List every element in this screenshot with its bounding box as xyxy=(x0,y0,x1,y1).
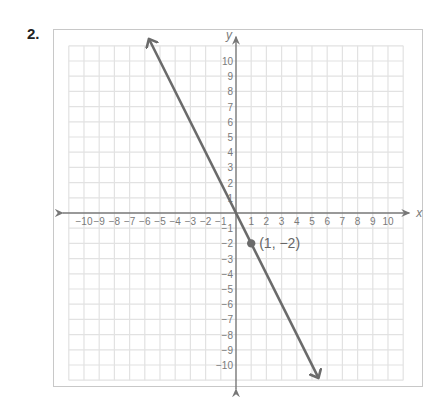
y-tick-label: −6 xyxy=(222,299,234,310)
x-tick-label: 8 xyxy=(355,216,361,227)
coordinate-plane: xy −10−9−8−7−6−5−4−3−2−11234567891010987… xyxy=(0,0,444,401)
x-axis-label: x xyxy=(415,206,423,220)
y-tick-label: −10 xyxy=(216,360,233,371)
y-axis-label: y xyxy=(225,28,233,42)
x-tick-label: 6 xyxy=(324,216,330,227)
y-tick-label: −7 xyxy=(222,314,234,325)
x-tick-label: 10 xyxy=(382,216,394,227)
y-tick-label: −5 xyxy=(222,284,234,295)
x-tick-label: −7 xyxy=(124,216,136,227)
y-tick-label: 5 xyxy=(227,132,233,143)
x-tick-label: 3 xyxy=(279,216,285,227)
point-label: (1, −2) xyxy=(259,235,300,251)
x-tick-label: 1 xyxy=(248,216,254,227)
x-tick-label: −10 xyxy=(76,216,93,227)
y-tick-label: 10 xyxy=(222,56,234,67)
y-tick-label: 8 xyxy=(227,86,233,97)
y-tick-label: 6 xyxy=(227,117,233,128)
y-tick-label: −8 xyxy=(222,330,234,341)
x-tick-label: −9 xyxy=(93,216,105,227)
x-tick-label: −8 xyxy=(109,216,121,227)
point-marker xyxy=(247,239,255,247)
x-tick-label: −5 xyxy=(154,216,166,227)
x-tick-label: −4 xyxy=(169,216,181,227)
y-tick-label: 3 xyxy=(227,162,233,173)
x-tick-label: 7 xyxy=(340,216,346,227)
y-tick-label: −9 xyxy=(222,345,234,356)
y-tick-label: −3 xyxy=(222,254,234,265)
x-tick-label: −2 xyxy=(200,216,212,227)
y-tick-label: −1 xyxy=(222,223,234,234)
x-tick-label: 4 xyxy=(294,216,300,227)
y-tick-label: 2 xyxy=(227,178,233,189)
y-tick-label: −2 xyxy=(222,238,234,249)
y-tick-label: 7 xyxy=(227,102,233,113)
x-tick-label: −3 xyxy=(185,216,197,227)
y-tick-label: 4 xyxy=(227,147,233,158)
y-tick-label: −4 xyxy=(222,269,234,280)
x-tick-label: 9 xyxy=(370,216,376,227)
x-tick-label: −6 xyxy=(139,216,151,227)
x-tick-label: 5 xyxy=(309,216,315,227)
x-tick-label: 2 xyxy=(264,216,270,227)
y-tick-label: 9 xyxy=(227,71,233,82)
